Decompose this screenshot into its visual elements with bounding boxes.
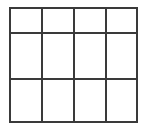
grid-cell-r2-c4 xyxy=(106,33,137,79)
grid-cell-r1-c3 xyxy=(74,8,106,33)
grid-cell-r1-c1 xyxy=(10,8,42,33)
grid-cell-r1-c2 xyxy=(42,8,74,33)
grid-cell-r2-c1 xyxy=(10,33,42,79)
grid-cell-r3-c4 xyxy=(106,79,137,122)
grid-cell-r3-c3 xyxy=(74,79,106,122)
grid-cell-r2-c3 xyxy=(74,33,106,79)
grid-cell-r1-c4 xyxy=(106,8,137,33)
grid-cell-r3-c1 xyxy=(10,79,42,122)
grid-lines xyxy=(0,0,146,129)
grid-cell-r2-c2 xyxy=(42,33,74,79)
grid-diagram xyxy=(0,0,146,129)
grid-cell-r3-c2 xyxy=(42,79,74,122)
